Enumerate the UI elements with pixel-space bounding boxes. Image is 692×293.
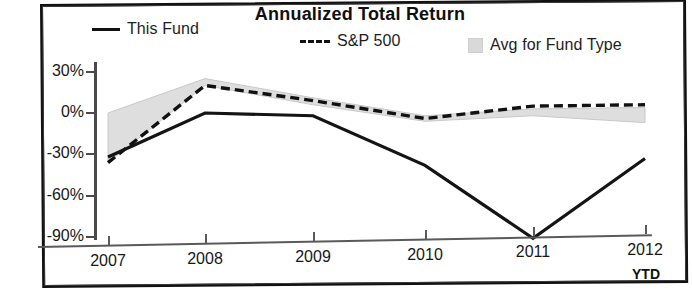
- legend-item-this-fund: This Fund: [92, 20, 199, 38]
- legend-item-sp500: S&P 500: [300, 32, 401, 50]
- x-axis-tick: [108, 236, 110, 245]
- x-axis-label: 2007: [78, 252, 138, 270]
- x-axis-ytd-label: YTD: [632, 266, 660, 282]
- legend-label-sp500: S&P 500: [337, 32, 401, 50]
- legend-label-avg-fund-type: Avg for Fund Type: [490, 36, 622, 54]
- y-axis-label: 30%: [22, 62, 84, 80]
- legend-item-avg-fund-type: Avg for Fund Type: [468, 36, 622, 54]
- legend-label-this-fund: This Fund: [127, 20, 199, 38]
- x-axis-label: 2012: [615, 241, 675, 259]
- solid-line-swatch-icon: [92, 28, 120, 31]
- chart-title: Annualized Total Return: [230, 4, 490, 25]
- y-axis-label: 0%: [22, 103, 84, 121]
- y-axis-label: -90%: [22, 227, 84, 245]
- x-axis-tick: [533, 227, 535, 236]
- plot-area: [95, 58, 655, 240]
- x-axis-tick: [425, 230, 427, 239]
- x-axis-tick: [205, 234, 207, 243]
- x-axis-label: 2010: [395, 246, 455, 264]
- y-axis-label: -60%: [22, 186, 84, 204]
- x-axis-label: 2008: [175, 250, 235, 268]
- gray-box-swatch-icon: [468, 38, 483, 53]
- series-line-sp500: [108, 85, 645, 162]
- series-line-this-fund: [108, 113, 645, 238]
- x-axis-tick: [645, 225, 647, 234]
- chart-screenshot: Annualized Total Return This Fund S&P 50…: [0, 0, 692, 293]
- x-axis-label: 2011: [503, 243, 563, 261]
- dashed-line-swatch-icon: [300, 40, 330, 43]
- x-axis-label: 2009: [283, 248, 343, 266]
- x-axis-tick: [313, 232, 315, 241]
- y-axis-label: -30%: [22, 144, 84, 162]
- plot-svg: [95, 58, 655, 240]
